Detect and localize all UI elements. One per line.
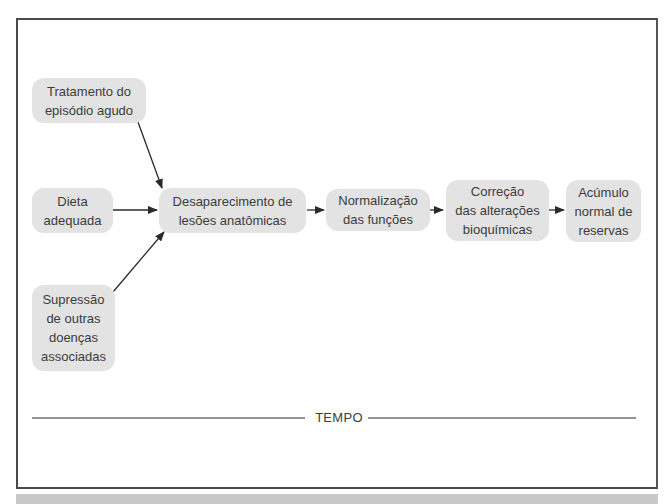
node-label-line: das alterações [455, 201, 540, 220]
node-label-line: lesões anatômicas [179, 211, 287, 230]
node-label-line: Tratamento do [47, 82, 131, 101]
node-label-line: adequada [44, 211, 102, 230]
node-label-line: de outras [46, 309, 100, 328]
node-label-line: associadas [41, 347, 106, 366]
node-dieta: Dieta adequada [32, 188, 113, 233]
node-label-line: das funções [343, 210, 413, 229]
node-label-line: normal de [575, 202, 633, 221]
timeline-label: TEMPO [308, 409, 370, 427]
node-correcao: Correção das alterações bioquímicas [446, 180, 549, 241]
node-label-line: Supressão [42, 290, 104, 309]
node-desaparecimento: Desaparecimento de lesões anatômicas [159, 188, 306, 233]
bottom-bar [16, 494, 658, 504]
node-label-line: reservas [579, 221, 629, 240]
node-normalizacao: Normalização das funções [326, 189, 430, 231]
node-supressao: Supressão de outras doenças associadas [32, 285, 115, 371]
node-label-line: Acúmulo [578, 183, 629, 202]
node-label-line: Desaparecimento de [173, 192, 293, 211]
node-acumulo: Acúmulo normal de reservas [566, 180, 641, 242]
node-label-line: bioquímicas [463, 220, 532, 239]
node-label-line: Correção [471, 182, 524, 201]
node-label-line: Normalização [338, 191, 417, 210]
node-label-line: Dieta [57, 192, 87, 211]
node-label-line: episódio agudo [45, 101, 133, 120]
node-label-line: doenças [49, 328, 98, 347]
node-tratamento: Tratamento do episódio agudo [32, 78, 146, 123]
